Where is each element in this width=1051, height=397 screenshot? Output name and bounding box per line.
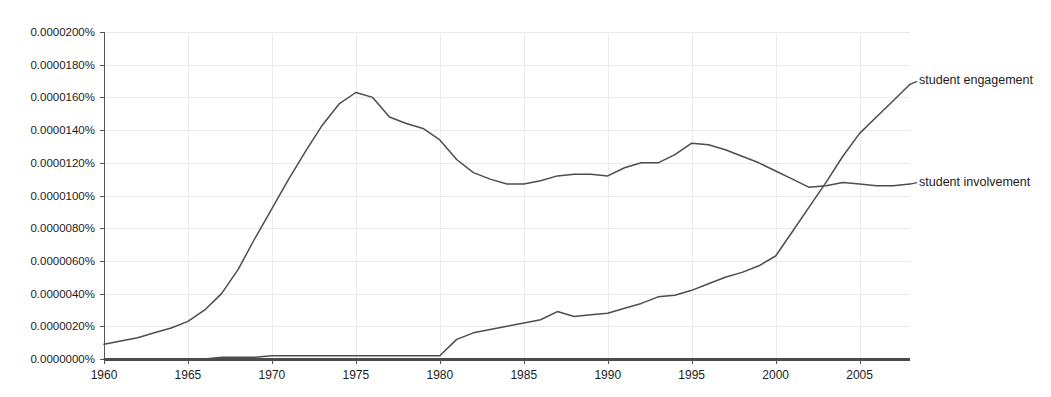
series-label-student-involvement: student involvement — [919, 175, 1031, 189]
x-tick-label: 1990 — [594, 368, 621, 382]
x-tick-label: 1995 — [678, 368, 705, 382]
x-tick-label: 2005 — [846, 368, 873, 382]
series-leader-student-engagement — [910, 81, 917, 84]
y-tick-label: 0.0000060% — [30, 255, 95, 267]
series-label-student-engagement: student engagement — [919, 73, 1034, 87]
y-tick-label: 0.0000160% — [30, 91, 95, 103]
y-axis — [100, 32, 105, 360]
y-tick-label: 0.0000120% — [30, 157, 95, 169]
x-tick-label: 2000 — [762, 368, 789, 382]
y-tick-label: 0.0000100% — [30, 190, 95, 202]
x-tick-label: 1985 — [510, 368, 537, 382]
x-tick-label: 1975 — [343, 368, 370, 382]
x-tick-label: 1970 — [259, 368, 286, 382]
y-tick-label: 0.0000020% — [30, 320, 95, 332]
ngram-chart: 0.0000000%0.0000020%0.0000040%0.0000060%… — [0, 0, 1051, 397]
y-tick-label: 0.0000200% — [30, 26, 95, 38]
y-tick-label: 0.0000140% — [30, 124, 95, 136]
y-tick-label: 0.0000000% — [30, 353, 95, 365]
x-axis — [104, 360, 910, 364]
y-tick-labels: 0.0000000%0.0000020%0.0000040%0.0000060%… — [30, 26, 95, 365]
x-tick-labels: 1960196519701975198019851990199520002005 — [91, 368, 874, 382]
series-leader-student-involvement — [910, 183, 917, 184]
vertical-gridlines — [189, 32, 861, 359]
y-tick-label: 0.0000040% — [30, 288, 95, 300]
chart-plot-area: 0.0000000%0.0000020%0.0000040%0.0000060%… — [0, 0, 1051, 397]
x-tick-label: 1960 — [91, 368, 118, 382]
horizontal-gridlines — [104, 33, 910, 327]
y-tick-label: 0.0000180% — [30, 59, 95, 71]
x-tick-label: 1965 — [175, 368, 202, 382]
y-tick-label: 0.0000080% — [30, 222, 95, 234]
series-inline-labels: student involvementstudent engagement — [910, 73, 1034, 188]
series-line-student-engagement — [104, 84, 910, 359]
series-lines — [104, 84, 910, 359]
x-tick-label: 1980 — [426, 368, 453, 382]
